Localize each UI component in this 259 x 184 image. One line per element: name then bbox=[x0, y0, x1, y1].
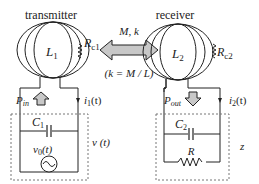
current-1-label: i1(t) bbox=[84, 94, 102, 108]
load-resistor-icon bbox=[178, 158, 206, 166]
current-1-arrow-icon bbox=[76, 98, 80, 103]
power-in-arrow bbox=[33, 92, 49, 105]
current-2-label: i2(t) bbox=[229, 94, 247, 108]
coupling-double-arrow bbox=[100, 40, 158, 60]
transmitter-inductor-label: L1 bbox=[45, 44, 58, 61]
wireless-power-transfer-diagram: transmitter L1 Rc1 Pin i1(t) C1 v0(t) v … bbox=[0, 0, 259, 184]
source-label: v0(t) bbox=[33, 143, 53, 157]
transmitter-title: transmitter bbox=[25, 8, 77, 22]
voltage-label: v (t) bbox=[92, 136, 110, 149]
current-2-arrow-icon bbox=[218, 98, 222, 103]
coupling-label: M, k bbox=[118, 25, 140, 37]
coupling-formula: (k = M / L) bbox=[105, 67, 154, 80]
transmitter-resistor-label: Rc1 bbox=[83, 36, 100, 52]
capacitor-2 bbox=[188, 127, 194, 141]
ac-source-icon bbox=[41, 156, 57, 172]
impedance-label: z bbox=[239, 140, 245, 152]
power-in-label: Pin bbox=[15, 94, 29, 108]
receiver-title: receiver bbox=[156, 8, 195, 22]
capacitor-1 bbox=[46, 124, 52, 138]
load-resistor-label: R bbox=[187, 145, 195, 157]
power-out-arrow bbox=[185, 92, 201, 106]
receiver-resistor-label: Rc2 bbox=[216, 45, 233, 61]
receiver-inductor-label: L2 bbox=[171, 46, 184, 63]
power-out-label: Pout bbox=[163, 94, 182, 108]
capacitor-1-label: C1 bbox=[32, 115, 44, 130]
capacitor-2-label: C2 bbox=[175, 117, 187, 132]
